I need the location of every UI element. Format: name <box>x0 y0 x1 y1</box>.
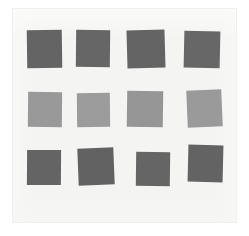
color-swatch-fill <box>126 29 165 68</box>
color-swatch <box>126 29 165 68</box>
color-swatch-fill <box>77 147 114 185</box>
color-swatch <box>27 30 63 68</box>
color-swatch-fill <box>27 150 61 185</box>
color-swatch-fill <box>136 152 170 186</box>
color-swatch <box>76 30 110 67</box>
color-swatch <box>28 92 62 127</box>
color-swatch <box>77 93 110 127</box>
color-swatch <box>77 147 114 185</box>
color-swatch <box>188 145 224 183</box>
color-swatch-fill <box>27 30 63 68</box>
color-swatch <box>127 91 163 127</box>
color-swatch-fill <box>127 91 163 127</box>
color-swatch-fill <box>28 92 62 127</box>
swatch-grid <box>0 0 249 236</box>
image-canvas <box>0 0 249 236</box>
color-swatch-fill <box>184 31 221 69</box>
color-swatch <box>186 89 223 127</box>
color-swatch-fill <box>188 145 224 183</box>
color-swatch <box>136 152 170 186</box>
color-swatch <box>184 31 221 69</box>
color-swatch <box>27 150 61 185</box>
color-swatch-fill <box>76 30 110 67</box>
color-swatch-fill <box>186 89 223 127</box>
color-swatch-fill <box>77 93 110 127</box>
